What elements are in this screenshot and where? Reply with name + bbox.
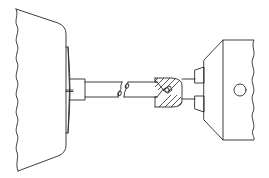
shaft-assembly-drawing — [0, 0, 269, 178]
right-housing — [223, 40, 254, 140]
sectioned-coupling — [150, 76, 186, 108]
right-hole — [234, 84, 246, 96]
diagram-canvas — [0, 0, 269, 178]
left-housing — [16, 9, 66, 171]
coupling-arms — [182, 79, 195, 99]
break-marks — [117, 82, 129, 97]
right-flange — [195, 40, 223, 140]
left-hub — [66, 79, 85, 100]
